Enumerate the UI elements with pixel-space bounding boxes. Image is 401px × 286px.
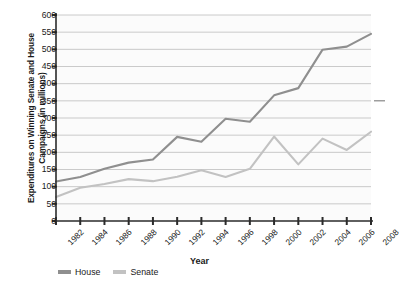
y-tick-label: 200 xyxy=(32,148,56,157)
legend-label-house: House xyxy=(75,267,100,277)
y-tick-label: 550 xyxy=(32,28,56,37)
y-tick-label: 350 xyxy=(32,97,56,106)
y-tick-label: 100 xyxy=(32,182,56,191)
y-axis-tick-labels: 050100150200250300350400450500550600 xyxy=(30,0,56,286)
x-axis-title: Year xyxy=(0,256,385,266)
y-tick-label: 50 xyxy=(32,200,56,209)
y-tick-label: 450 xyxy=(32,62,56,71)
y-tick-label: 500 xyxy=(32,45,56,54)
legend-swatch-senate xyxy=(113,270,126,274)
legend-swatch-house xyxy=(58,270,71,274)
chart-legend: House Senate xyxy=(58,267,158,277)
y-tick-label: 250 xyxy=(32,131,56,140)
y-tick-label: 600 xyxy=(32,11,56,20)
y-axis-title-container: Expenditures on Winning Senate and House… xyxy=(0,18,30,218)
y-tick-label: 150 xyxy=(32,165,56,174)
y-tick-label: 0 xyxy=(32,217,56,226)
y-tick-label: 300 xyxy=(32,114,56,123)
legend-item-senate: Senate xyxy=(113,267,158,277)
legend-label-senate: Senate xyxy=(130,267,158,277)
y-tick-label: 400 xyxy=(32,79,56,88)
legend-item-house: House xyxy=(58,267,100,277)
